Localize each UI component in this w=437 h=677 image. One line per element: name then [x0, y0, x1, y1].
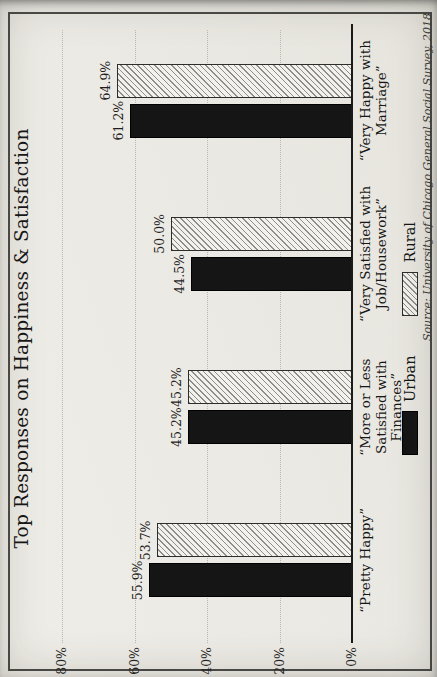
urban-swatch-icon [402, 411, 418, 455]
plot-area: 55.9%53.7%45.2%45.2%44.5%50.0%61.2%64.9% [40, 30, 352, 643]
value-label-urban-2: 44.5% [172, 242, 187, 306]
value-label-urban-3: 61.2% [111, 89, 126, 153]
y-tick-label-60%: 60% [127, 647, 142, 677]
value-label-rural-1: 45.2% [169, 355, 184, 419]
bar-rural-3 [117, 64, 352, 98]
value-label-rural-0: 53.7% [138, 508, 153, 572]
legend-item-rural: Rural [402, 222, 418, 315]
value-label-rural-2: 50.0% [152, 202, 167, 266]
bar-urban-3 [130, 104, 352, 138]
x-axis-baseline [351, 24, 353, 643]
source-note: Source: University of Chicago General So… [421, 13, 434, 341]
category-label-1: “More or Less Satisfied with Finances” [358, 319, 405, 495]
category-label-0: “Pretty Happy” [358, 472, 374, 648]
photographed-chart: Top Responses on Happiness & Satisfactio… [0, 0, 437, 677]
y-tick-label-20%: 20% [272, 647, 287, 677]
bar-urban-0 [149, 563, 352, 597]
bar-urban-1 [188, 410, 352, 444]
rural-swatch-icon [402, 272, 418, 316]
category-label-2: “Very Satisfied with Job/Housework” [358, 166, 389, 342]
y-tick-label-0%: 0% [344, 647, 359, 677]
value-label-rural-3: 64.9% [98, 49, 113, 113]
bar-rural-1 [188, 370, 352, 404]
legend-item-urban: Urban [402, 356, 418, 455]
chart-canvas: Top Responses on Happiness & Satisfactio… [0, 0, 437, 677]
y-tick-label-40%: 40% [199, 647, 214, 677]
legend: Urban Rural [402, 0, 418, 677]
chart-title: Top Responses on Happiness & Satisfactio… [11, 40, 32, 637]
bar-rural-2 [171, 217, 352, 251]
y-tick-label-80%: 80% [54, 647, 69, 677]
legend-label-rural: Rural [402, 222, 418, 262]
category-label-3: “Very Happy with Marriage” [358, 13, 389, 189]
gridline-80% [62, 30, 63, 643]
bar-rural-0 [157, 523, 352, 557]
legend-label-urban: Urban [402, 356, 418, 402]
bar-urban-2 [191, 257, 352, 291]
